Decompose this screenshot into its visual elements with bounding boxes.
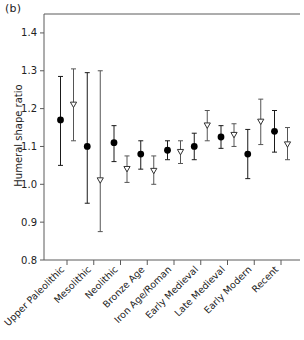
- scatter-plot: 0.80.91.01.11.21.31.4Upper PaleolithicMe…: [0, 0, 304, 340]
- data-point-triangle: [284, 142, 290, 147]
- data-point-triangle: [97, 178, 103, 183]
- y-tick-label: 1.4: [21, 27, 37, 38]
- data-point-circle: [164, 147, 171, 154]
- data-point-circle: [271, 128, 278, 135]
- y-tick-label: 0.8: [21, 255, 37, 266]
- data-point-circle: [137, 151, 144, 158]
- y-tick-label: 1.3: [21, 65, 37, 76]
- x-tick-label: Early Modern: [202, 264, 254, 316]
- y-tick-label: 1.1: [21, 141, 37, 152]
- data-point-circle: [111, 139, 118, 146]
- data-point-triangle: [204, 123, 210, 128]
- y-tick-label: 0.9: [21, 217, 37, 228]
- data-point-circle: [244, 151, 251, 158]
- data-point-triangle: [177, 149, 183, 154]
- data-point-triangle: [258, 119, 264, 124]
- data-point-triangle: [151, 168, 157, 173]
- x-tick-label: Recent: [249, 263, 280, 294]
- y-tick-label: 1.2: [21, 103, 37, 114]
- data-point-circle: [191, 143, 198, 150]
- data-point-circle: [57, 117, 64, 124]
- data-point-triangle: [231, 132, 237, 137]
- figure-panel: (b) Humeral shape ratio 0.80.91.01.11.21…: [0, 0, 304, 340]
- data-point-circle: [218, 134, 225, 141]
- y-tick-label: 1.0: [21, 179, 37, 190]
- data-point-circle: [84, 143, 91, 150]
- data-point-triangle: [70, 102, 76, 107]
- data-point-triangle: [124, 166, 130, 171]
